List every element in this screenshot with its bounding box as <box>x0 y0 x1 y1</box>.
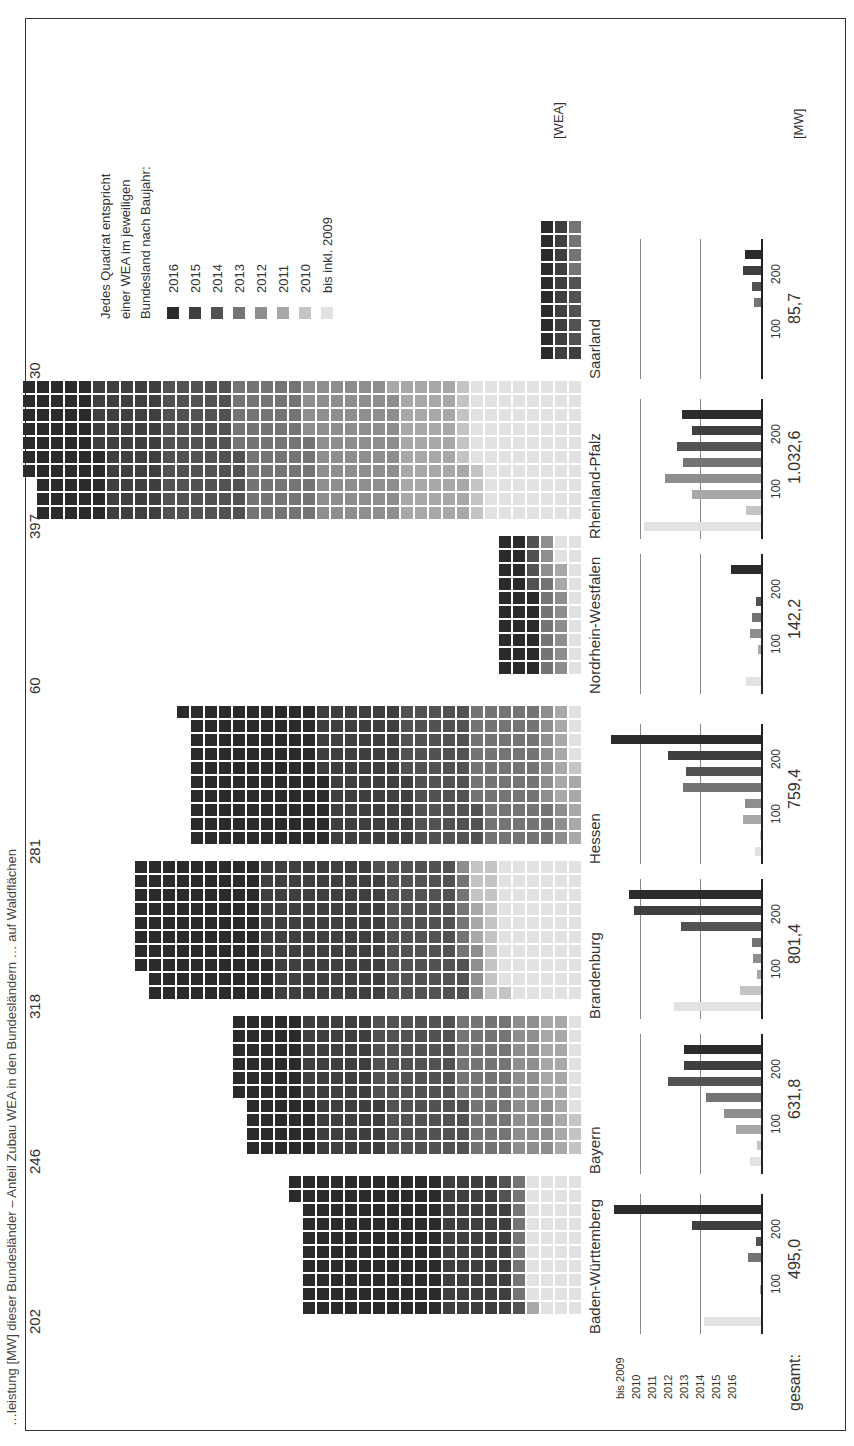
waffle-cell <box>387 903 399 915</box>
waffle-cell <box>443 1274 455 1286</box>
waffle-cell <box>247 1058 259 1070</box>
gridline <box>700 1034 701 1174</box>
waffle-cell <box>191 832 203 844</box>
waffle-cell <box>275 1128 287 1140</box>
waffle-cell <box>457 1302 469 1314</box>
waffle-cell <box>317 423 329 435</box>
waffle-cell <box>527 409 539 421</box>
waffle-cell <box>359 381 371 393</box>
waffle-cell <box>569 1128 581 1140</box>
waffle-cell <box>359 1114 371 1126</box>
waffle-cell <box>499 762 511 774</box>
waffle-cell <box>541 564 553 576</box>
waffle-cell <box>401 903 413 915</box>
waffle-cell <box>429 959 441 971</box>
waffle-cell <box>485 945 497 957</box>
waffle-cell <box>471 889 483 901</box>
bar <box>706 1093 761 1102</box>
waffle-cell <box>303 959 315 971</box>
waffle-cell <box>345 1260 357 1272</box>
waffle-cell <box>247 720 259 732</box>
waffle-cell <box>555 1030 567 1042</box>
waffle-cell <box>555 1072 567 1084</box>
waffle-grid <box>289 1176 581 1314</box>
waffle-cell <box>541 1190 553 1202</box>
waffle-cell <box>247 1030 259 1042</box>
waffle-cell <box>527 748 539 760</box>
waffle-cell <box>233 889 245 901</box>
waffle-cell <box>569 790 581 802</box>
waffle-cell <box>191 465 203 477</box>
waffle-cell <box>485 1190 497 1202</box>
waffle-cell <box>499 606 511 618</box>
waffle-cell <box>429 451 441 463</box>
waffle-cell <box>261 507 273 519</box>
waffle-grid <box>135 861 581 999</box>
waffle-cell <box>205 973 217 985</box>
waffle-cell <box>415 423 427 435</box>
waffle-cell <box>219 832 231 844</box>
waffle-cell <box>247 437 259 449</box>
waffle-cell <box>317 889 329 901</box>
waffle-cell <box>107 409 119 421</box>
waffle-cell <box>541 1232 553 1244</box>
waffle-cell <box>331 1190 343 1202</box>
waffle-cell <box>555 221 567 233</box>
waffle-cell <box>429 1246 441 1258</box>
waffle-cell <box>513 507 525 519</box>
waffle-cell <box>233 987 245 999</box>
waffle-cell <box>387 423 399 435</box>
waffle-cell <box>457 1288 469 1300</box>
waffle-cell <box>401 1072 413 1084</box>
waffle-cell <box>135 395 147 407</box>
waffle-cell <box>387 1260 399 1272</box>
state-group: 281Hessen100200759,4 <box>26 704 844 864</box>
waffle-cell <box>121 395 133 407</box>
waffle-cell <box>373 987 385 999</box>
waffle-cell <box>513 648 525 660</box>
waffle-cell <box>303 1288 315 1300</box>
waffle-cell <box>555 305 567 317</box>
waffle-cell <box>303 1142 315 1154</box>
waffle-cell <box>205 748 217 760</box>
waffle-cell <box>541 221 553 233</box>
state-name: Bayern <box>586 1126 603 1174</box>
waffle-cell <box>513 1204 525 1216</box>
waffle-cell <box>569 1260 581 1272</box>
waffle-cell <box>331 832 343 844</box>
waffle-cell <box>191 409 203 421</box>
waffle-cell <box>387 1190 399 1202</box>
bar <box>746 506 761 515</box>
gridline <box>700 724 701 864</box>
waffle-cell <box>289 706 301 718</box>
waffle-cell <box>429 465 441 477</box>
waffle-cell <box>317 762 329 774</box>
waffle-cell <box>401 776 413 788</box>
waffle-cell <box>261 889 273 901</box>
waffle-cell <box>415 493 427 505</box>
waffle-cell <box>527 634 539 646</box>
waffle-cell <box>527 1086 539 1098</box>
waffle-cell <box>121 409 133 421</box>
waffle-cell <box>149 493 161 505</box>
waffle-cell <box>93 451 105 463</box>
waffle-cell <box>219 720 231 732</box>
waffle-cell <box>317 706 329 718</box>
waffle-cell <box>135 903 147 915</box>
waffle-cell <box>345 706 357 718</box>
waffle-cell <box>317 1086 329 1098</box>
waffle-cell <box>471 903 483 915</box>
waffle-cell <box>401 917 413 929</box>
state-total-mw: 495,0 <box>786 1239 804 1279</box>
waffle-cell <box>485 1260 497 1272</box>
waffle-cell <box>345 1274 357 1286</box>
waffle-cell <box>513 1142 525 1154</box>
state-total-mw: 142,2 <box>786 599 804 639</box>
waffle-cell <box>429 832 441 844</box>
waffle-cell <box>65 493 77 505</box>
waffle-cell <box>121 493 133 505</box>
waffle-cell <box>261 945 273 957</box>
waffle-cell <box>401 1232 413 1244</box>
waffle-cell <box>275 507 287 519</box>
waffle-cell <box>499 592 511 604</box>
